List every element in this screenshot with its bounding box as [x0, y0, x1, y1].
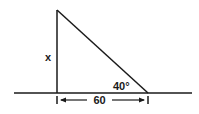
arrowhead-right-icon: [139, 98, 145, 103]
angle-label: 40°: [113, 80, 130, 92]
arrowhead-left-icon: [60, 98, 66, 103]
triangle-diagram: x 60 40°: [0, 0, 199, 114]
side-label-x: x: [45, 51, 52, 63]
side-label-60: 60: [93, 94, 105, 106]
hypotenuse: [57, 10, 148, 93]
